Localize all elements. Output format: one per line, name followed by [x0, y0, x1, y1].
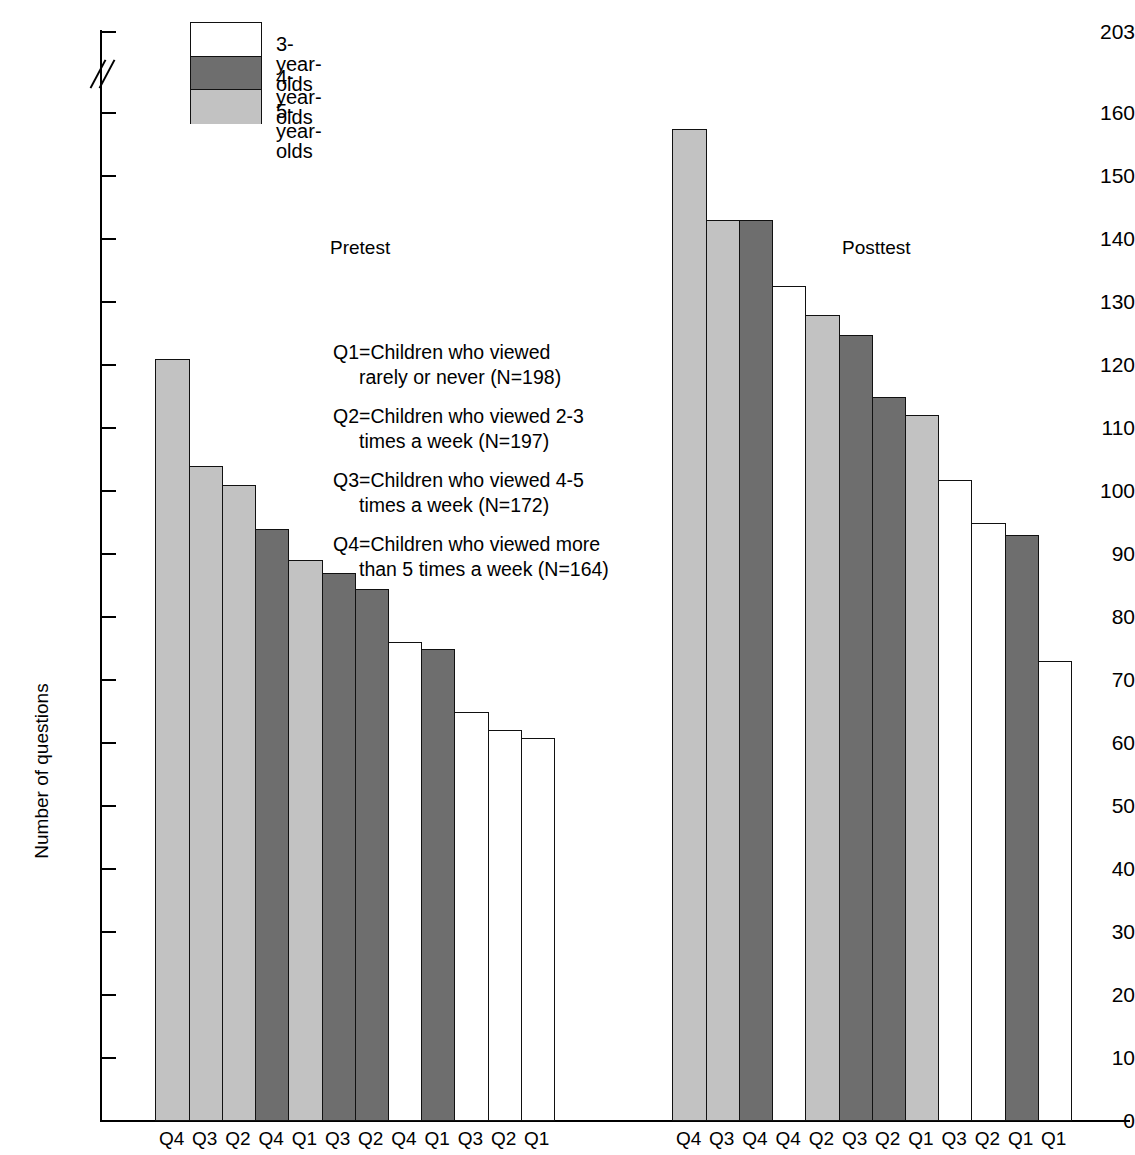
annotation-block: Q1=Children who viewedrarely or never (N… — [333, 340, 609, 596]
x-tick-label: Q4 — [387, 1128, 420, 1150]
annotation-q1: Q1=Children who viewedrarely or never (N… — [333, 340, 609, 390]
x-tick-label: Q4 — [255, 1128, 288, 1150]
bar-posttest-Q3-3-year-olds — [938, 480, 973, 1121]
x-tick-label: Q3 — [705, 1128, 738, 1150]
bar-posttest-Q1-3-year-olds — [1037, 661, 1072, 1121]
annotation-line-2: than 5 times a week (N=164) — [333, 557, 609, 582]
group-caption-posttest: Posttest — [842, 237, 911, 259]
x-tick-label: Q3 — [188, 1128, 221, 1150]
annotation-q2: Q2=Children who viewed 2-3times a week (… — [333, 404, 609, 454]
x-tick-label: Q1 — [288, 1128, 321, 1150]
bar-posttest-Q1-5-year-olds — [904, 415, 939, 1121]
x-tick-label: Q3 — [454, 1128, 487, 1150]
bar-pretest-Q3-4-year-olds — [321, 573, 356, 1121]
legend-swatch-4-year-olds — [191, 56, 261, 90]
legend-swatch-3-year-olds — [191, 23, 261, 57]
bar-posttest-Q3-4-year-olds — [838, 335, 873, 1121]
x-tick-label: Q1 — [904, 1128, 937, 1150]
annotation-q3: Q3=Children who viewed 4-5times a week (… — [333, 468, 609, 518]
annotation-line-2: times a week (N=197) — [333, 429, 609, 454]
bar-pretest-Q1-5-year-olds — [288, 560, 323, 1121]
bar-chart: 0102030405060708090100110120130140150160… — [0, 0, 1135, 1155]
bar-posttest-Q2-3-year-olds — [971, 523, 1006, 1122]
legend-swatch-5-year-olds — [191, 90, 261, 124]
bar-pretest-Q4-5-year-olds — [155, 359, 190, 1121]
x-tick-label: Q2 — [805, 1128, 838, 1150]
x-tick-label: Q3 — [838, 1128, 871, 1150]
bar-pretest-Q3-5-year-olds — [188, 466, 223, 1121]
x-tick-label: Q1 — [1004, 1128, 1037, 1150]
annotation-line-1: Q4=Children who viewed more — [333, 533, 600, 555]
x-tick-label: Q3 — [938, 1128, 971, 1150]
legend-swatch-box — [190, 22, 262, 124]
annotation-line-1: Q1=Children who viewed — [333, 341, 550, 363]
bar-pretest-Q4-3-year-olds — [387, 642, 422, 1121]
x-tick-label: Q4 — [738, 1128, 771, 1150]
bar-pretest-Q2-4-year-olds — [354, 589, 389, 1121]
annotation-line-1: Q2=Children who viewed 2-3 — [333, 405, 584, 427]
x-tick-label: Q2 — [487, 1128, 520, 1150]
bar-pretest-Q4-4-year-olds — [255, 529, 290, 1121]
x-tick-label: Q4 — [672, 1128, 705, 1150]
bar-posttest-Q4-3-year-olds — [772, 286, 807, 1121]
bar-pretest-Q1-3-year-olds — [520, 738, 555, 1121]
x-tick-label: Q2 — [871, 1128, 904, 1150]
x-tick-label: Q1 — [1037, 1128, 1070, 1150]
annotation-line-2: times a week (N=172) — [333, 493, 609, 518]
x-tick-label: Q2 — [221, 1128, 254, 1150]
group-caption-pretest: Pretest — [330, 237, 390, 259]
bar-posttest-Q4-5-year-olds — [672, 129, 707, 1121]
annotation-line-2: rarely or never (N=198) — [333, 365, 609, 390]
x-tick-label: Q1 — [520, 1128, 553, 1150]
bar-pretest-Q3-3-year-olds — [454, 712, 489, 1122]
x-tick-label: Q4 — [772, 1128, 805, 1150]
x-tick-label: Q1 — [421, 1128, 454, 1150]
annotation-line-1: Q3=Children who viewed 4-5 — [333, 469, 584, 491]
bar-posttest-Q2-4-year-olds — [871, 397, 906, 1122]
bar-posttest-Q3-5-year-olds — [705, 220, 740, 1121]
x-tick-label: Q2 — [354, 1128, 387, 1150]
bar-pretest-Q1-4-year-olds — [421, 649, 456, 1122]
legend-label-5-year-olds: 5-year-olds — [276, 101, 322, 161]
bar-posttest-Q1-4-year-olds — [1004, 535, 1039, 1121]
bar-posttest-Q4-4-year-olds — [738, 220, 773, 1121]
annotation-q4: Q4=Children who viewed morethan 5 times … — [333, 532, 609, 582]
bar-posttest-Q2-5-year-olds — [805, 315, 840, 1121]
x-tick-label: Q3 — [321, 1128, 354, 1150]
bar-pretest-Q2-3-year-olds — [487, 730, 522, 1121]
x-tick-label: Q4 — [155, 1128, 188, 1150]
x-tick-label: Q2 — [971, 1128, 1004, 1150]
bar-pretest-Q2-5-year-olds — [221, 485, 256, 1121]
